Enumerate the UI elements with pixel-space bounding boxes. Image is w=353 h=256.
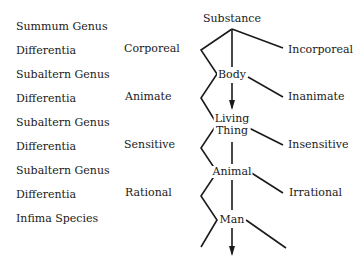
node-substance: Substance	[202, 13, 262, 25]
differentia-incorporeal: Incorporeal	[288, 44, 353, 56]
node-animal: Animal	[211, 166, 252, 178]
right-branch-insensitive	[249, 128, 283, 145]
level-label-differentia: Differentia	[16, 141, 76, 153]
node-man: Man	[219, 214, 246, 226]
differentia-rational: Rational	[125, 187, 172, 199]
right-branch-irrational	[250, 172, 283, 193]
arrow-down-icon	[229, 246, 235, 256]
differentia-corporeal: Corporeal	[124, 43, 180, 55]
differentia-inanimate: Inanimate	[288, 91, 345, 103]
differentia-sensitive: Sensitive	[124, 139, 175, 151]
node-living-thing: Living Thing	[214, 113, 251, 137]
right-branch-bottom	[246, 220, 286, 248]
level-label-differentia: Differentia	[16, 93, 76, 105]
node-living-thing-line2: Thing	[215, 125, 250, 137]
right-branch-inanimate	[248, 77, 283, 97]
differentia-irrational: Irrational	[289, 187, 342, 199]
level-label-summum-genus: Summum Genus	[16, 21, 108, 33]
level-label-differentia: Differentia	[16, 189, 76, 201]
level-label-subaltern-genus: Subaltern Genus	[16, 165, 110, 177]
porphyrian-tree-diagram: Summum Genus Differentia Subaltern Genus…	[0, 0, 353, 256]
differentia-insensitive: Insensitive	[288, 139, 349, 151]
level-label-infima-species: Infima Species	[16, 213, 98, 225]
level-label-differentia: Differentia	[16, 45, 76, 57]
level-label-subaltern-genus: Subaltern Genus	[16, 117, 110, 129]
node-body: Body	[217, 69, 247, 81]
right-branch-incorporeal	[232, 29, 283, 48]
arrow-down-icon	[229, 100, 235, 110]
level-label-subaltern-genus: Subaltern Genus	[16, 69, 110, 81]
differentia-animate: Animate	[125, 91, 171, 103]
